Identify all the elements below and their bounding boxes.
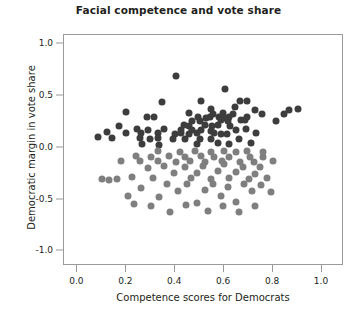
data-point bbox=[217, 192, 224, 199]
data-point bbox=[223, 130, 230, 137]
data-point bbox=[123, 129, 130, 136]
data-point bbox=[200, 163, 207, 170]
data-point bbox=[116, 122, 123, 129]
data-point bbox=[222, 86, 229, 93]
data-point bbox=[226, 140, 233, 147]
x-axis-label: Competence scores for Democrats bbox=[63, 292, 343, 303]
x-tick-mark bbox=[223, 265, 224, 272]
data-point bbox=[259, 110, 266, 117]
data-point bbox=[156, 193, 163, 200]
x-tick-label: 0.4 bbox=[167, 276, 181, 286]
data-point bbox=[251, 106, 258, 113]
data-point bbox=[252, 130, 259, 137]
scatter-plot-figure: Facial competence and vote share 1.00.50… bbox=[0, 0, 357, 321]
data-point bbox=[205, 208, 212, 215]
data-point bbox=[215, 122, 222, 129]
y-tick-label: -0.5 bbox=[35, 194, 53, 204]
x-tick-label: 0.0 bbox=[69, 276, 83, 286]
data-point bbox=[210, 180, 217, 187]
data-point bbox=[145, 164, 152, 171]
data-point bbox=[138, 185, 145, 192]
data-point bbox=[215, 167, 222, 174]
data-point bbox=[108, 135, 115, 142]
data-point bbox=[206, 113, 213, 120]
data-point bbox=[256, 164, 263, 171]
data-point bbox=[233, 148, 240, 155]
data-point bbox=[224, 184, 231, 191]
x-tick-label: 1.0 bbox=[314, 276, 328, 286]
data-point bbox=[147, 153, 154, 160]
plot-area bbox=[63, 34, 343, 265]
chart-title: Facial competence and vote share bbox=[0, 4, 357, 16]
data-point bbox=[166, 153, 173, 160]
data-point bbox=[260, 154, 267, 161]
data-point bbox=[158, 98, 165, 105]
y-tick-mark bbox=[56, 146, 63, 147]
data-point bbox=[147, 202, 154, 209]
data-point bbox=[235, 135, 242, 142]
data-point bbox=[145, 126, 152, 133]
data-point bbox=[235, 209, 242, 216]
data-point bbox=[281, 110, 288, 117]
data-point bbox=[185, 109, 192, 116]
data-point bbox=[251, 202, 258, 209]
data-point bbox=[123, 109, 130, 116]
data-point bbox=[226, 174, 233, 181]
data-point bbox=[106, 176, 113, 183]
x-tick-label: 0.6 bbox=[216, 276, 230, 286]
data-point bbox=[183, 202, 190, 209]
data-point bbox=[113, 175, 120, 182]
data-point bbox=[173, 72, 180, 79]
data-point bbox=[182, 136, 189, 143]
data-point bbox=[151, 113, 158, 120]
data-point bbox=[270, 158, 277, 165]
data-point bbox=[237, 97, 244, 104]
y-tick-mark bbox=[56, 95, 63, 96]
y-tick-mark bbox=[56, 250, 63, 251]
data-point bbox=[124, 193, 131, 200]
data-point bbox=[182, 164, 189, 171]
data-point bbox=[194, 199, 201, 206]
x-tick-mark bbox=[174, 265, 175, 272]
data-point bbox=[118, 157, 125, 164]
x-tick-mark bbox=[272, 265, 273, 272]
data-point bbox=[129, 174, 136, 181]
data-point bbox=[194, 170, 201, 177]
data-point bbox=[244, 98, 251, 105]
y-tick-label: 1.0 bbox=[39, 38, 53, 48]
y-tick-mark bbox=[56, 43, 63, 44]
data-point bbox=[207, 136, 214, 143]
data-point bbox=[294, 106, 301, 113]
data-point bbox=[173, 158, 180, 165]
data-point bbox=[95, 133, 102, 140]
x-tick-mark bbox=[125, 265, 126, 272]
data-point bbox=[233, 127, 240, 134]
data-point bbox=[243, 126, 250, 133]
data-point bbox=[219, 202, 226, 209]
data-point bbox=[233, 169, 240, 176]
data-point bbox=[167, 209, 174, 216]
data-point bbox=[221, 161, 228, 168]
x-tick-mark bbox=[76, 265, 77, 272]
data-point bbox=[226, 153, 233, 160]
y-tick-label: 0.0 bbox=[39, 142, 53, 152]
x-tick-label: 0.2 bbox=[118, 276, 132, 286]
y-tick-label: -1.0 bbox=[35, 245, 53, 255]
data-point bbox=[215, 140, 222, 147]
data-point bbox=[239, 163, 246, 170]
data-point bbox=[249, 188, 256, 195]
x-tick-label: 0.8 bbox=[265, 276, 279, 286]
data-point bbox=[184, 180, 191, 187]
data-point bbox=[139, 141, 146, 148]
data-point bbox=[163, 181, 170, 188]
data-point bbox=[155, 148, 162, 155]
y-tick-label: 0.5 bbox=[39, 90, 53, 100]
data-point bbox=[136, 158, 143, 165]
y-axis-label: Democratic margin in vote share bbox=[26, 32, 37, 263]
data-point bbox=[197, 97, 204, 104]
data-point bbox=[267, 189, 274, 196]
x-tick-mark bbox=[321, 265, 322, 272]
data-point bbox=[171, 170, 178, 177]
data-point bbox=[161, 163, 168, 170]
data-point bbox=[98, 175, 105, 182]
